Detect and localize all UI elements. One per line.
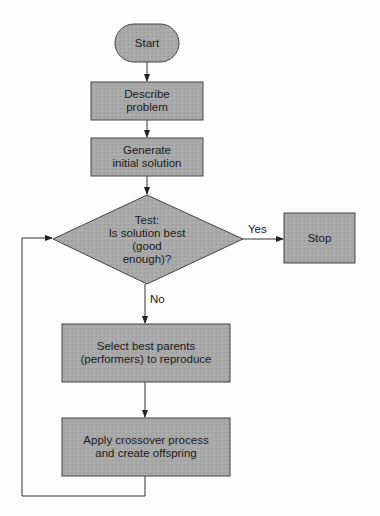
flowchart-canvas: Start Describe problem Generate initial …: [0, 0, 380, 516]
test-text-line1: Test:: [135, 214, 159, 227]
stop-text: Stop: [308, 232, 332, 245]
describe-text-line1: Describe: [124, 88, 169, 101]
start-text: Start: [135, 37, 159, 50]
yes-edge-label: Yes: [248, 223, 267, 235]
test-text-line4: enough)?: [123, 253, 172, 266]
start-label: Start: [115, 24, 179, 62]
test-text-line2: Is solution best: [109, 227, 186, 240]
describe-label: Describe problem: [91, 82, 203, 120]
generate-text-line1: Generate: [123, 144, 171, 157]
stop-label: Stop: [284, 213, 355, 263]
apply-label: Apply crossover process and create offsp…: [62, 418, 230, 476]
generate-label: Generate initial solution: [91, 138, 203, 176]
no-edge-label: No: [150, 293, 165, 305]
select-label: Select best parents (performers) to repr…: [62, 324, 230, 382]
generate-text-line2: initial solution: [112, 157, 181, 170]
test-text-line3: (good: [132, 240, 161, 253]
test-label: Test: Is solution best (good enough)?: [90, 212, 204, 268]
describe-text-line2: problem: [126, 101, 168, 114]
apply-text-line2: and create offspring: [95, 447, 196, 460]
select-text-line2: (performers) to reproduce: [80, 353, 211, 366]
apply-text-line1: Apply crossover process: [83, 434, 208, 447]
select-text-line1: Select best parents: [97, 340, 195, 353]
